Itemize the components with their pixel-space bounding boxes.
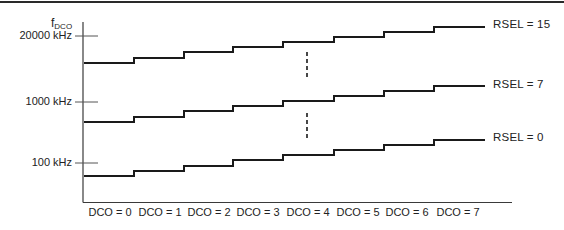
x-label-dco-5: DCO = 5 bbox=[332, 206, 384, 218]
x-label-dco-2: DCO = 2 bbox=[183, 206, 235, 218]
x-label-dco-6: DCO = 6 bbox=[381, 206, 433, 218]
series-label-rsel-15: RSEL = 15 bbox=[493, 18, 550, 30]
y-tick-label-100: 100 kHz bbox=[2, 156, 72, 168]
x-label-dco-3: DCO = 3 bbox=[232, 206, 284, 218]
step-line-rsel-15 bbox=[84, 27, 485, 63]
step-line-rsel-7 bbox=[84, 86, 485, 122]
series-label-rsel-0: RSEL = 0 bbox=[493, 131, 544, 143]
x-label-dco-0: DCO = 0 bbox=[84, 206, 136, 218]
y-tick-label-1000: 1000 kHz bbox=[2, 95, 72, 107]
x-label-dco-1: DCO = 1 bbox=[134, 206, 186, 218]
series-label-rsel-7: RSEL = 7 bbox=[493, 78, 544, 90]
y-tick-label-20000: 20000 kHz bbox=[2, 29, 72, 41]
x-label-dco-4: DCO = 4 bbox=[282, 206, 334, 218]
step-line-rsel-0 bbox=[84, 140, 485, 176]
x-label-dco-7: DCO = 7 bbox=[432, 206, 484, 218]
dco-frequency-diagram bbox=[0, 0, 564, 230]
